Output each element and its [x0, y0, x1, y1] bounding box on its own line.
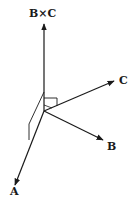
label-c: C: [119, 75, 128, 86]
vector-b: [44, 111, 103, 140]
label-a: A: [10, 186, 19, 197]
right-angle-marker: [44, 98, 57, 106]
vector-c: [44, 81, 114, 111]
label-b-cross-c: B×C: [29, 8, 56, 19]
right-angle-marker-inner: [44, 105, 52, 108]
vector-diagram: [0, 0, 137, 204]
label-b: B: [107, 141, 116, 152]
